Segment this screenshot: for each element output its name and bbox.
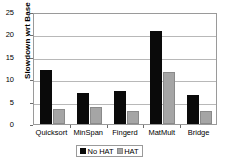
bar (163, 72, 175, 124)
x-axis-category-label: Bridge (180, 128, 217, 137)
x-axis-category-label: MatMult (143, 128, 180, 137)
x-axis-category-label: MinSpan (70, 128, 107, 137)
bar-group (77, 14, 102, 124)
legend-label: HAT (124, 147, 138, 156)
y-axis-tick-label: 0 (0, 121, 14, 129)
bar (127, 111, 139, 124)
y-axis-tick-label: 25 (0, 9, 14, 17)
bar-group (150, 14, 175, 124)
bar (90, 107, 102, 124)
y-axis-tick-label: 15 (0, 54, 14, 62)
bar (114, 91, 126, 124)
y-axis-tick-label: 10 (0, 76, 14, 84)
x-axis-category-label: Quicksort (33, 128, 70, 137)
x-axis-category-label: Fingerd (107, 128, 144, 137)
bar (187, 95, 199, 124)
legend-item: HAT (117, 147, 139, 156)
bar-group (114, 14, 139, 124)
y-axis-tick-mark (30, 125, 33, 126)
bar (53, 109, 65, 124)
legend-swatch-icon (80, 148, 86, 154)
bar-group (40, 14, 65, 124)
legend-swatch-icon (117, 148, 123, 154)
legend-item: No HAT (80, 147, 114, 156)
bar-chart: Slowdown wrt Base 0510152025 QuicksortMi… (0, 0, 233, 164)
bar (200, 111, 212, 124)
bar (40, 70, 52, 124)
bar (150, 31, 162, 124)
y-axis-tick-label: 20 (0, 31, 14, 39)
bar (77, 93, 89, 124)
legend-label: No HAT (88, 147, 114, 156)
plot-area (33, 13, 217, 125)
y-axis-tick-label: 5 (0, 99, 14, 107)
chart-legend: No HATHAT (76, 145, 143, 157)
bar-group (187, 14, 212, 124)
